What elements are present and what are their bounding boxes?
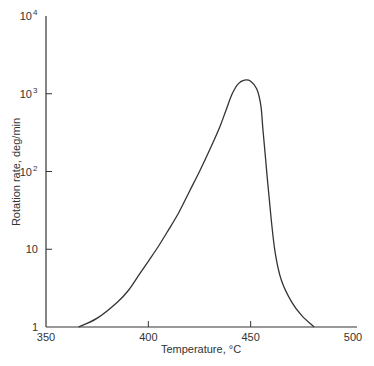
rotation-rate-chart: 350400450500 110102103104 Temperature, °…	[0, 0, 374, 366]
x-axis-label: Temperature, °C	[161, 343, 241, 355]
y-ticks: 110102103104	[20, 8, 52, 333]
y-tick-exponent: 3	[33, 86, 38, 95]
x-tick-label: 500	[344, 331, 362, 343]
y-tick-label: 10	[20, 10, 32, 22]
x-tick-label: 400	[139, 331, 157, 343]
y-axis-label: Rotation rate, deg/min	[10, 118, 22, 226]
y-tick-label: 1	[32, 321, 38, 333]
y-tick-exponent: 2	[33, 164, 38, 173]
y-tick-exponent: 4	[33, 8, 38, 17]
y-tick-label: 10	[20, 88, 32, 100]
x-tick-label: 450	[241, 331, 259, 343]
y-tick-label: 10	[26, 243, 38, 255]
x-tick-label: 350	[37, 331, 55, 343]
axes	[46, 16, 357, 327]
rotation-rate-curve	[79, 80, 314, 327]
